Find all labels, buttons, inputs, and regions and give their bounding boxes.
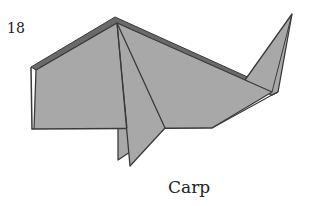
model-caption: Carp [168, 177, 210, 197]
origami-carp-diagram [0, 0, 309, 206]
head-edge [31, 67, 34, 129]
